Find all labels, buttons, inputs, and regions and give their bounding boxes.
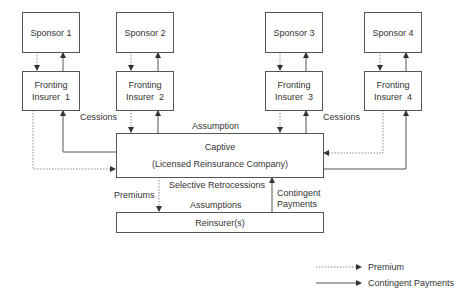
- fronting-3-line1: Fronting: [277, 79, 310, 91]
- sponsor-4-box: Sponsor 4: [364, 12, 422, 53]
- fronting-2-line1: Fronting: [128, 79, 161, 91]
- reinsurer-box: Reinsurer(s): [116, 212, 324, 233]
- assumptions-label: Assumptions: [190, 200, 242, 211]
- sponsor-1-box: Sponsor 1: [22, 12, 80, 53]
- captive-title: Captive: [205, 139, 236, 156]
- fronting-4-line2: Insurer 4: [374, 91, 412, 103]
- contingent-label-line1: Contingent: [277, 188, 321, 199]
- cessions-left-label: Cessions: [80, 112, 117, 123]
- captive-box: Captive (Licensed Reinsurance Company): [116, 133, 324, 178]
- fronting-insurer-3-box: Fronting Insurer 3: [265, 71, 323, 111]
- fronting-1-line2: Insurer 1: [32, 91, 70, 103]
- selective-retrocessions-label: Selective Retrocessions: [169, 180, 265, 191]
- fronting-3-line2: Insurer 3: [275, 91, 313, 103]
- cessions-right-label: Cessions: [323, 112, 360, 123]
- contingent-label-line2: Payments: [277, 199, 317, 210]
- fronting-insurer-2-box: Fronting Insurer 2: [116, 71, 174, 111]
- sponsor-3-label: Sponsor 3: [273, 27, 314, 39]
- sponsor-4-label: Sponsor 4: [372, 27, 413, 39]
- premiums-label: Premiums: [114, 190, 155, 201]
- fronting-insurer-1-box: Fronting Insurer 1: [22, 71, 80, 111]
- fronting-2-line2: Insurer 2: [126, 91, 164, 103]
- fronting-1-line1: Fronting: [34, 79, 67, 91]
- sponsor-1-label: Sponsor 1: [30, 27, 71, 39]
- sponsor-2-label: Sponsor 2: [124, 27, 165, 39]
- sponsor-2-box: Sponsor 2: [116, 12, 174, 53]
- reinsurer-label: Reinsurer(s): [195, 217, 245, 229]
- legend-contingent-label: Contingent Payments: [368, 278, 454, 289]
- legend-premium-label: Premium: [368, 262, 404, 273]
- assumption-label: Assumption: [192, 121, 239, 132]
- sponsor-3-box: Sponsor 3: [265, 12, 323, 53]
- captive-subtitle: (Licensed Reinsurance Company): [152, 156, 288, 173]
- fronting-4-line1: Fronting: [376, 79, 409, 91]
- fronting-insurer-4-box: Fronting Insurer 4: [364, 71, 422, 111]
